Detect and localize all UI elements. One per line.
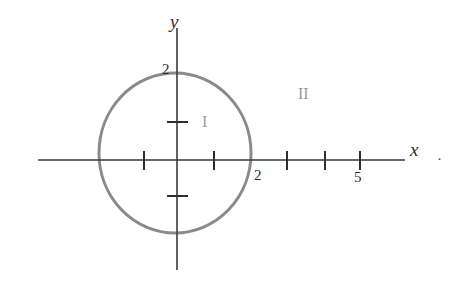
trailing-dot-mark: · [437,152,442,167]
circle-shape [99,73,251,233]
x-axis-label: x [410,140,418,159]
coordinate-plane-figure: y x 2 2 5 I II · [0,0,457,296]
y-tick-label-2: 2 [162,62,170,77]
region-label-outer: II [298,86,309,102]
x-tick-label-2: 2 [254,168,262,183]
figure-canvas [0,0,457,296]
region-label-inner: I [202,114,207,130]
x-tick-label-5: 5 [354,170,362,185]
y-axis-label: y [170,12,178,31]
